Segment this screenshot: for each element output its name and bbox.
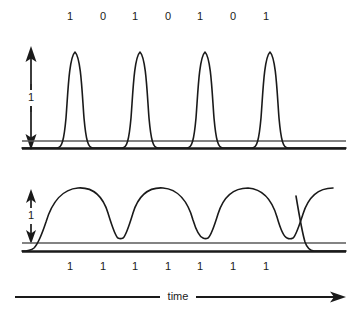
lower-bit-label-3: 1 <box>165 260 171 272</box>
lower-baseline-group <box>22 243 346 252</box>
upper-bit-label-5: 0 <box>230 10 236 22</box>
lower-bit-label-1: 1 <box>100 260 106 272</box>
signal-waveform-diagram: 1 0 1 0 1 0 1 1 <box>0 0 353 319</box>
lower-waveform-path <box>22 188 333 251</box>
upper-waveform-path <box>22 52 346 148</box>
lower-bit-label-0: 1 <box>67 260 73 272</box>
upper-bit-label-0: 1 <box>67 10 73 22</box>
lower-amplitude-label: 1 <box>28 209 34 221</box>
diagram-canvas: 1 0 1 0 1 0 1 1 <box>0 0 353 319</box>
upper-bit-label-3: 0 <box>165 10 171 22</box>
lower-bit-label-4: 1 <box>197 260 203 272</box>
upper-bit-label-row: 1 0 1 0 1 0 1 <box>67 10 269 22</box>
time-axis-label: time <box>168 290 189 302</box>
lower-amplitude-indicator: 1 <box>24 189 38 244</box>
lower-bit-label-row: 1 1 1 1 1 1 1 <box>67 260 269 272</box>
upper-bit-label-2: 1 <box>132 10 138 22</box>
upper-bit-label-6: 1 <box>263 10 269 22</box>
upper-bit-label-4: 1 <box>197 10 203 22</box>
upper-bit-label-1: 0 <box>100 10 106 22</box>
upper-amplitude-label: 1 <box>28 91 34 103</box>
lower-bit-label-5: 1 <box>230 260 236 272</box>
upper-amplitude-indicator: 1 <box>24 46 38 150</box>
time-axis: time <box>15 290 346 303</box>
lower-bit-label-2: 1 <box>132 260 138 272</box>
lower-bit-label-6: 1 <box>263 260 269 272</box>
